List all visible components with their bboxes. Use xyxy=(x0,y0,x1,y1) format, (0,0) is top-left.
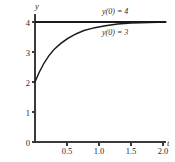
solution-curves-figure: y t 0 1 2 3 4 0.5 1.0 1.5 2.0 y(0) = 4 y… xyxy=(0,0,175,162)
x-tick-label-1-5: 1.5 xyxy=(119,147,143,156)
y-tick-label-4: 4 xyxy=(16,19,30,28)
y-tick-label-0: 0 xyxy=(16,139,30,148)
y-axis-label: y xyxy=(35,2,39,11)
y-tick-label-2: 2 xyxy=(16,79,30,88)
curve-label-y0-3: y(0) = 3 xyxy=(102,29,128,37)
y-tick-label-3: 3 xyxy=(16,49,30,58)
x-tick-label-0-5: 0.5 xyxy=(55,147,79,156)
x-tick-label-2-0: 2.0 xyxy=(151,147,175,156)
curve-y0-3 xyxy=(35,22,166,82)
curve-label-y0-4: y(0) = 4 xyxy=(102,8,128,16)
y-tick-label-1: 1 xyxy=(16,109,30,118)
x-tick-label-1-0: 1.0 xyxy=(87,147,111,156)
